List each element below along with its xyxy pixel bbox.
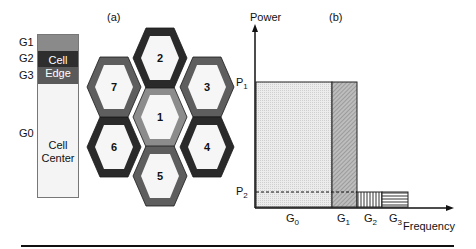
x-tick-g2: G2	[364, 212, 377, 229]
x-axis-arrow-icon	[446, 205, 454, 211]
p1-sub: 1	[243, 82, 247, 91]
x-tick-g1: G1	[337, 212, 350, 229]
p1-label: P1	[236, 76, 248, 93]
x-tick-g0-main: G	[286, 212, 295, 224]
x-tick-g1-sub: 1	[346, 218, 350, 227]
x-tick-g0: G0	[286, 212, 299, 229]
x-tick-g2-sub: 2	[373, 218, 377, 227]
p2-sub: 2	[243, 191, 247, 200]
p2-label: P2	[236, 185, 248, 202]
x-tick-g3-sub: 3	[398, 218, 402, 227]
power-frequency-chart	[0, 0, 476, 249]
x-tick-g3: G3	[389, 212, 402, 229]
y-axis-arrow-icon	[252, 24, 258, 32]
x-tick-g3-main: G	[389, 212, 398, 224]
bar-g1	[332, 82, 357, 207]
x-tick-g0-sub: 0	[295, 218, 299, 227]
bar-g0	[256, 82, 332, 207]
x-axis-label: Frequency	[403, 220, 455, 232]
x-tick-g1-main: G	[337, 212, 346, 224]
bar-g2	[357, 192, 382, 207]
x-tick-g2-main: G	[364, 212, 373, 224]
bottom-rule	[21, 245, 454, 247]
bar-g3	[382, 192, 408, 207]
